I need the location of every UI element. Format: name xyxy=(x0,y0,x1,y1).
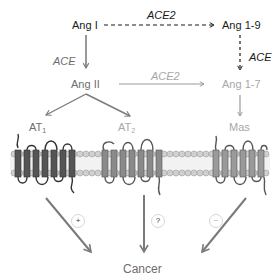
node-ang-1-9: Ang 1-9 xyxy=(222,20,261,31)
enzyme-ace2-top: ACE2 xyxy=(147,10,176,21)
at2-receptor xyxy=(102,140,162,196)
enzyme-ace-right: ACE xyxy=(249,52,272,63)
effect-badge-at1: + xyxy=(71,214,85,228)
arrow-at1-to-cancer xyxy=(46,198,91,252)
at1-receptor xyxy=(15,134,75,193)
node-at1: AT1 xyxy=(29,122,46,134)
effect-badge-mas: − xyxy=(209,214,223,228)
arrow-ang2-to-at2 xyxy=(86,94,130,116)
arrow-ang2-to-at1 xyxy=(46,94,86,115)
node-ang-i: Ang I xyxy=(72,20,98,31)
node-ang-ii: Ang II xyxy=(71,79,100,90)
enzyme-ace-left: ACE xyxy=(53,56,76,67)
node-ang-1-7: Ang 1-7 xyxy=(222,79,261,90)
enzyme-ace2-middle: ACE2 xyxy=(151,71,180,82)
effect-badge-at2: ? xyxy=(151,214,165,228)
node-at2: AT2 xyxy=(118,122,135,134)
pathway-arrows xyxy=(0,0,276,279)
arrow-mas-to-cancer xyxy=(202,198,246,252)
node-cancer: Cancer xyxy=(123,263,162,275)
node-mas: Mas xyxy=(229,122,250,133)
